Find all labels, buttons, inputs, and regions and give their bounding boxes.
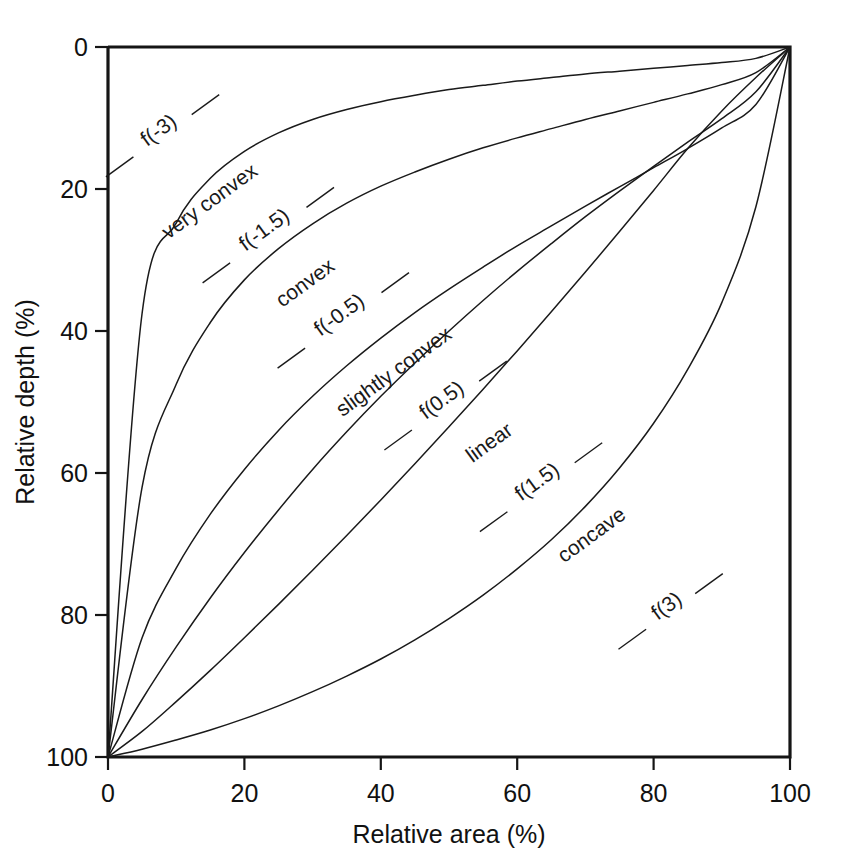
y-axis-title: Relative depth (%) xyxy=(11,299,39,505)
y-axis-ticks: 020406080100 xyxy=(46,33,108,771)
leader-line xyxy=(203,263,231,283)
annotation-label: f(0.5) xyxy=(415,376,468,423)
leader-line xyxy=(480,512,508,532)
leader-line xyxy=(695,574,723,594)
y-tick-label: 100 xyxy=(46,743,88,771)
x-tick-label: 100 xyxy=(769,779,811,807)
y-tick-label: 40 xyxy=(60,317,88,345)
x-tick-label: 40 xyxy=(367,779,395,807)
annotation-label: linear xyxy=(461,418,516,467)
leader-line xyxy=(278,348,306,368)
leader-line xyxy=(382,273,410,293)
y-tick-label: 20 xyxy=(60,175,88,203)
chart-page: 020406080100 020406080100 f(-3)very conv… xyxy=(0,0,842,865)
annotation-label: f(3) xyxy=(647,587,686,624)
annotation-label: f(-1.5) xyxy=(234,203,293,255)
y-tick-label: 60 xyxy=(60,459,88,487)
hypsometric-curve-chart: 020406080100 020406080100 f(-3)very conv… xyxy=(0,0,842,865)
leader-line xyxy=(575,443,603,463)
annotation-label: convex xyxy=(271,253,339,311)
annotation-label: concave xyxy=(553,502,630,567)
annotation-label: f(1.5) xyxy=(510,457,563,504)
x-tick-label: 20 xyxy=(230,779,258,807)
x-tick-label: 80 xyxy=(640,779,668,807)
x-axis-title: Relative area (%) xyxy=(352,820,545,848)
x-tick-label: 60 xyxy=(503,779,531,807)
x-axis-ticks: 020406080100 xyxy=(101,757,811,807)
leader-line-group xyxy=(106,95,723,650)
leader-line xyxy=(106,157,133,177)
y-tick-label: 0 xyxy=(74,33,88,61)
leader-line xyxy=(192,95,220,115)
annotation-label: f(-3) xyxy=(136,109,181,150)
leader-line xyxy=(384,430,412,450)
leader-line xyxy=(307,187,335,207)
annotation-label: f(-0.5) xyxy=(309,289,368,341)
y-tick-label: 80 xyxy=(60,601,88,629)
curve-label-group: f(-3)very convexf(-1.5)convexf(-0.5)slig… xyxy=(136,109,686,624)
leader-line xyxy=(619,629,647,649)
x-tick-label: 0 xyxy=(101,779,115,807)
